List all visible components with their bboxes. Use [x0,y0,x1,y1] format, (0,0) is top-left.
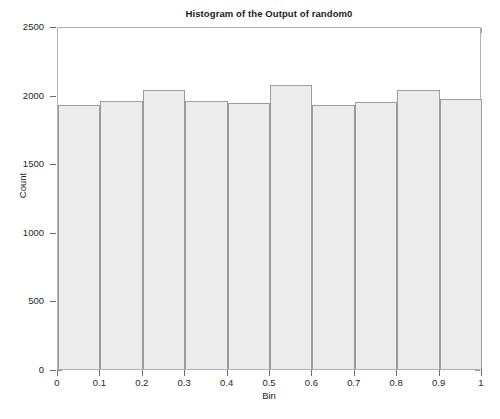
chart-title: Histogram of the Output of random0 [57,8,481,20]
histogram-bars [58,28,480,369]
histogram-bar [355,102,397,369]
x-tick-mark [142,370,143,376]
x-tick-mark [269,370,270,376]
x-tick-label: 0 [37,377,77,388]
y-tick-mark [50,96,56,97]
x-tick-mark-top [481,28,482,33]
histogram-bar [185,101,227,369]
histogram-bar [270,85,312,369]
histogram-bar [100,101,142,369]
histogram-bar [58,105,100,369]
x-tick-mark [354,370,355,376]
x-tick-label: 0.7 [334,377,374,388]
histogram-bar [397,90,439,369]
y-tick-label: 1000 [23,228,44,238]
y-tick-mark-right [475,370,480,371]
y-tick-mark [50,301,56,302]
x-tick-mark [227,370,228,376]
x-tick-label: 0.8 [376,377,416,388]
x-tick-label: 0.5 [249,377,289,388]
x-axis-label: Bin [57,390,481,401]
x-tick-label: 0.6 [291,377,331,388]
x-tick-label: 0.4 [207,377,247,388]
x-tick-label: 0.9 [419,377,459,388]
histogram-bar [143,90,185,369]
x-tick-label: 1 [461,377,500,388]
x-tick-mark [311,370,312,376]
x-tick-label: 0.2 [122,377,162,388]
plot-area [57,27,481,370]
histogram-figure: Histogram of the Output of random0 Count… [0,0,500,419]
y-tick-mark [50,370,56,371]
x-tick-mark [396,370,397,376]
y-tick-mark [50,27,56,28]
x-tick-mark [99,370,100,376]
y-tick-mark [50,164,56,165]
y-tick-label: 1500 [23,159,44,169]
y-tick-mark [50,233,56,234]
histogram-bar [312,105,354,369]
x-tick-mark [184,370,185,376]
histogram-bar [228,103,270,369]
y-tick-label: 2000 [23,91,44,101]
x-tick-mark [439,370,440,376]
y-tick-label: 500 [28,296,44,306]
histogram-bar [440,99,482,369]
x-tick-label: 0.1 [79,377,119,388]
x-tick-label: 0.3 [164,377,204,388]
x-tick-mark [57,370,58,376]
x-tick-mark [481,370,482,376]
y-tick-label: 2500 [23,22,44,32]
y-tick-label: 0 [39,365,44,375]
